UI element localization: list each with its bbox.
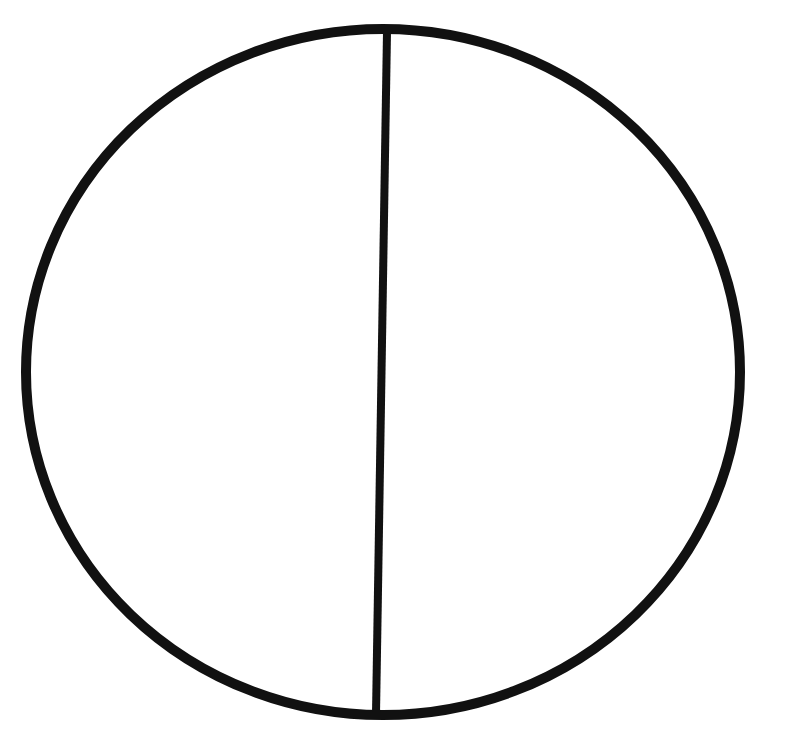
diagram-canvas [0,0,786,756]
background [0,0,786,756]
